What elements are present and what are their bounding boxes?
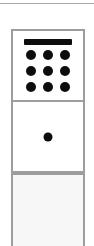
keypad-key-6: [60, 66, 70, 76]
keypad-display-bar: [24, 39, 72, 45]
keypad-panel[interactable]: [11, 29, 85, 102]
empty-panel[interactable]: [11, 172, 85, 246]
dot-panel[interactable]: [11, 100, 85, 173]
keypad-key-7: [26, 82, 36, 92]
dot-icon: [44, 132, 53, 141]
panel-stack: [11, 29, 85, 246]
top-horizontal-rule: [0, 3, 94, 4]
keypad-key-grid: [25, 50, 71, 92]
keypad-key-8: [43, 82, 53, 92]
keypad-key-9: [60, 82, 70, 92]
screen-root: [0, 0, 94, 246]
keypad-key-1: [26, 50, 36, 60]
keypad-key-3: [60, 50, 70, 60]
keypad-key-4: [26, 66, 36, 76]
keypad-key-5: [43, 66, 53, 76]
calculator-keypad-icon: [24, 39, 72, 93]
keypad-key-2: [43, 50, 53, 60]
